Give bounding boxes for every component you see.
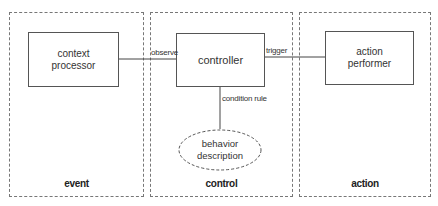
controller-label: controller <box>198 54 243 66</box>
action-performer-label: action performer <box>348 46 391 70</box>
action-performer-box: action performer <box>325 31 414 85</box>
condition-rule-label: condition rule <box>222 94 267 103</box>
observe-label: observe <box>151 48 178 57</box>
controller-box: controller <box>176 33 265 87</box>
trigger-label: trigger <box>266 46 287 55</box>
behavior-description-label: behavior description <box>180 138 260 162</box>
context-processor-label: context processor <box>52 48 96 72</box>
context-processor-box: context processor <box>28 32 119 87</box>
